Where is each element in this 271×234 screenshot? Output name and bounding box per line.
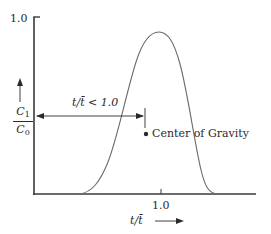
center-of-gravity-label: Center of Gravity — [152, 128, 249, 139]
x-tick-label: 1.0 — [152, 200, 170, 211]
diagram-canvas — [0, 0, 271, 234]
y-max-label: 1.0 — [10, 13, 28, 24]
y-direction-arrow — [17, 78, 23, 102]
response-curve — [80, 32, 216, 194]
x-direction-arrow — [155, 218, 184, 224]
y-axis-label: C1 C0 — [13, 106, 33, 137]
y-axis — [33, 17, 40, 195]
arrow-left-head — [36, 113, 44, 119]
x-axis-label: t/t̄ — [130, 215, 143, 226]
x-axis — [33, 189, 256, 194]
y-label-denominator: C0 — [13, 122, 33, 137]
time-ratio-arrow — [36, 108, 145, 128]
y-label-numerator: C1 — [13, 106, 33, 122]
time-ratio-label: t/t̄ < 1.0 — [72, 97, 118, 108]
center-of-gravity-dot — [144, 132, 148, 136]
